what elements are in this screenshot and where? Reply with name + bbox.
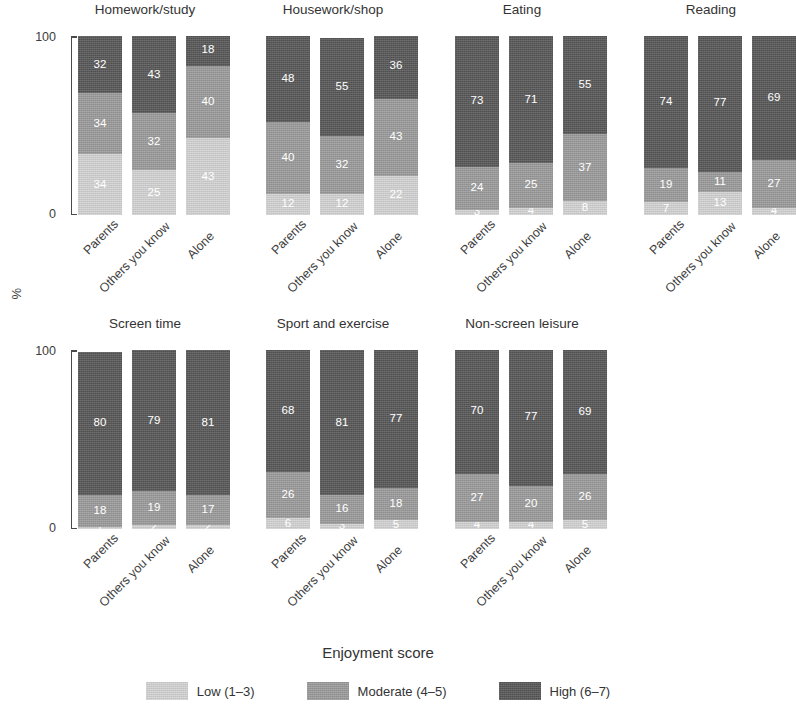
bar-segment[interactable]: 34	[78, 154, 122, 215]
bar-segment[interactable]: 43	[186, 138, 230, 215]
bar-segment[interactable]: 8	[563, 201, 607, 215]
bar-segment[interactable]: 12	[320, 194, 364, 215]
bar-segment[interactable]: 34	[78, 93, 122, 154]
bar-segment[interactable]: 74	[644, 36, 688, 168]
bar-segment[interactable]: 48	[266, 36, 310, 122]
bar-segment[interactable]: 6	[266, 518, 310, 529]
bar-segment[interactable]: 55	[320, 38, 364, 136]
bar-segment[interactable]: 68	[266, 350, 310, 472]
bar-segment[interactable]: 4	[509, 522, 553, 529]
bar-segment[interactable]: 7	[644, 202, 688, 215]
stacked-bar[interactable]: 42571	[509, 36, 553, 215]
stacked-bar[interactable]: 11880	[78, 350, 122, 529]
bar-segment[interactable]: 24	[455, 167, 499, 210]
bar-segment[interactable]: 19	[132, 491, 176, 525]
bar-segment[interactable]: 36	[374, 36, 418, 99]
stacked-bar[interactable]: 32473	[455, 36, 499, 215]
stacked-bar[interactable]: 42770	[455, 350, 499, 529]
bar-segment[interactable]: 3	[455, 210, 499, 215]
bar-segment[interactable]: 17	[186, 495, 230, 525]
plot-area: 118802197921781	[78, 350, 230, 529]
y-axis-tick	[72, 528, 77, 530]
stacked-bar[interactable]: 51877	[374, 350, 418, 529]
stacked-bar[interactable]: 31681	[320, 350, 364, 529]
bar-segment[interactable]: 43	[132, 36, 176, 113]
stacked-bar[interactable]: 224336	[374, 36, 418, 215]
bar-segment[interactable]: 2	[186, 525, 230, 529]
bar-segment[interactable]: 32	[132, 113, 176, 170]
bar-segment[interactable]: 55	[563, 36, 607, 134]
bar-value-label: 37	[563, 162, 607, 174]
stacked-bar[interactable]: 42769	[752, 36, 796, 215]
bar-segment[interactable]: 3	[320, 524, 364, 529]
bar-segment[interactable]: 73	[455, 36, 499, 167]
bar-value-label: 13	[698, 198, 742, 210]
bar-segment[interactable]: 4	[509, 208, 553, 215]
bar-segment[interactable]: 40	[186, 66, 230, 138]
bar-value-label: 6	[266, 518, 310, 529]
facet-panel: Homework/study0100343432253243434018Pare…	[60, 2, 230, 305]
legend-item[interactable]: Low (1–3)	[146, 682, 255, 700]
bar-segment[interactable]: 32	[78, 36, 122, 93]
bar-segment[interactable]: 27	[455, 474, 499, 522]
texture-overlay	[146, 682, 188, 700]
stacked-bar[interactable]: 62668	[266, 350, 310, 529]
bar-value-label: 25	[509, 180, 553, 192]
stacked-bar[interactable]: 124048	[266, 36, 310, 215]
bar-segment[interactable]: 26	[266, 472, 310, 519]
legend-item[interactable]: High (6–7)	[499, 682, 611, 700]
stacked-bar[interactable]: 21781	[186, 350, 230, 529]
bar-segment[interactable]: 5	[374, 520, 418, 529]
bar-segment[interactable]: 69	[563, 350, 607, 474]
bar-segment[interactable]: 18	[78, 495, 122, 527]
bar-segment[interactable]: 71	[509, 36, 553, 163]
legend-item[interactable]: Moderate (4–5)	[307, 682, 447, 700]
bar-segment[interactable]: 43	[374, 99, 418, 176]
bar-value-label: 34	[78, 118, 122, 130]
stacked-bar[interactable]: 131177	[698, 36, 742, 215]
bar-segment[interactable]: 12	[266, 194, 310, 215]
stacked-bar[interactable]: 123255	[320, 36, 364, 215]
bar-segment[interactable]: 69	[752, 36, 796, 160]
bar-value-label: 7	[644, 203, 688, 215]
stacked-bar[interactable]: 42077	[509, 350, 553, 529]
stacked-bar[interactable]: 52669	[563, 350, 607, 529]
bar-segment[interactable]: 81	[320, 350, 364, 495]
bar-segment[interactable]: 2	[132, 525, 176, 529]
stacked-bar[interactable]: 83755	[563, 36, 607, 215]
bar-segment[interactable]: 25	[509, 163, 553, 208]
bar-segment[interactable]: 40	[266, 122, 310, 194]
bar-segment[interactable]: 37	[563, 134, 607, 200]
bar-segment[interactable]: 22	[374, 176, 418, 215]
bar-value-label: 69	[752, 92, 796, 104]
stacked-bar[interactable]: 434018	[186, 36, 230, 215]
bar-segment[interactable]: 19	[644, 168, 688, 202]
bar-segment[interactable]: 4	[455, 522, 499, 529]
bar-segment[interactable]: 18	[186, 36, 230, 66]
bar-segment[interactable]: 26	[563, 474, 607, 521]
bar-segment[interactable]: 27	[752, 160, 796, 208]
bar-value-label: 18	[186, 45, 230, 57]
bar-segment[interactable]: 77	[374, 350, 418, 488]
bar-segment[interactable]: 32	[320, 136, 364, 193]
bar-segment[interactable]: 4	[752, 208, 796, 215]
bar-segment[interactable]: 80	[78, 352, 122, 495]
y-axis-tick	[72, 36, 77, 38]
bar-segment[interactable]: 77	[509, 350, 553, 486]
bar-segment[interactable]: 25	[132, 170, 176, 215]
bar-segment[interactable]: 70	[455, 350, 499, 474]
bar-segment[interactable]: 5	[563, 520, 607, 529]
bar-segment[interactable]: 13	[698, 192, 742, 215]
bar-segment[interactable]: 81	[186, 350, 230, 495]
bar-segment[interactable]: 79	[132, 350, 176, 491]
bar-segment[interactable]: 20	[509, 486, 553, 522]
stacked-bar[interactable]: 21979	[132, 350, 176, 529]
bar-segment[interactable]: 1	[78, 527, 122, 529]
stacked-bar[interactable]: 253243	[132, 36, 176, 215]
stacked-bar[interactable]: 343432	[78, 36, 122, 215]
stacked-bar[interactable]: 71974	[644, 36, 688, 215]
bar-segment[interactable]: 11	[698, 172, 742, 192]
bar-segment[interactable]: 77	[698, 36, 742, 172]
bar-segment[interactable]: 16	[320, 495, 364, 524]
bar-segment[interactable]: 18	[374, 488, 418, 520]
